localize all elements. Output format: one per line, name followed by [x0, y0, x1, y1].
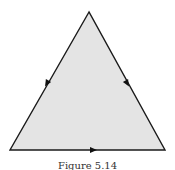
- triangle-shape: [10, 12, 165, 150]
- figure-caption: Figure 5.14: [0, 160, 175, 170]
- triangle-diagram: [0, 0, 175, 170]
